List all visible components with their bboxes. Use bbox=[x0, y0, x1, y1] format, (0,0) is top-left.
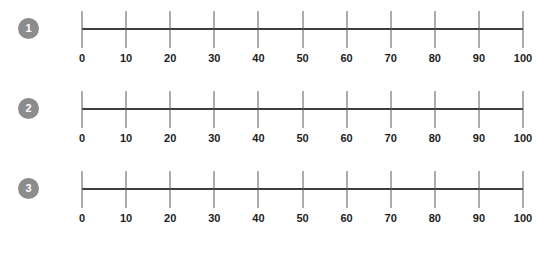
axis-tick-label: 40 bbox=[252, 132, 264, 144]
axis-tick-label: 40 bbox=[252, 52, 264, 64]
axis-tick-label: 70 bbox=[385, 132, 397, 144]
axis-tick-label: 100 bbox=[514, 212, 532, 224]
axis-tick bbox=[82, 171, 83, 208]
axis-tick bbox=[258, 11, 259, 48]
axis-tick bbox=[523, 171, 524, 208]
axis-tick-label: 10 bbox=[120, 132, 132, 144]
axis-tick bbox=[214, 91, 215, 128]
axis-tick-label: 0 bbox=[79, 52, 85, 64]
row-number-badge: 3 bbox=[18, 178, 39, 199]
axis-tick bbox=[302, 91, 303, 128]
axis-tick bbox=[523, 91, 524, 128]
axis-tick-label: 90 bbox=[473, 132, 485, 144]
axis-tick-label: 0 bbox=[79, 212, 85, 224]
number-line-worksheet: 1010203040506070809010020102030405060708… bbox=[0, 0, 558, 261]
axis-tick-label: 40 bbox=[252, 212, 264, 224]
axis-tick bbox=[302, 11, 303, 48]
axis-tick bbox=[170, 171, 171, 208]
axis-tick-label: 50 bbox=[296, 132, 308, 144]
axis-tick bbox=[390, 11, 391, 48]
axis-tick-label: 20 bbox=[164, 132, 176, 144]
row-number-badge: 2 bbox=[18, 98, 39, 119]
axis-tick-label: 20 bbox=[164, 212, 176, 224]
axis-tick bbox=[390, 91, 391, 128]
number-line-row: 20102030405060708090100 bbox=[0, 80, 558, 160]
axis-tick bbox=[523, 11, 524, 48]
axis-tick bbox=[214, 171, 215, 208]
axis-tick bbox=[302, 171, 303, 208]
number-line-row: 10102030405060708090100 bbox=[0, 0, 558, 80]
axis-tick bbox=[390, 171, 391, 208]
axis-tick bbox=[478, 11, 479, 48]
axis-tick-label: 80 bbox=[429, 52, 441, 64]
axis-tick-label: 70 bbox=[385, 52, 397, 64]
axis-tick bbox=[346, 11, 347, 48]
axis-tick bbox=[170, 91, 171, 128]
axis-tick bbox=[346, 91, 347, 128]
axis-tick-label: 10 bbox=[120, 52, 132, 64]
axis-tick-label: 60 bbox=[340, 212, 352, 224]
axis-tick bbox=[434, 11, 435, 48]
axis-tick bbox=[126, 171, 127, 208]
axis-tick-label: 30 bbox=[208, 132, 220, 144]
axis-tick-label: 80 bbox=[429, 212, 441, 224]
axis-tick bbox=[346, 171, 347, 208]
axis-tick bbox=[126, 91, 127, 128]
axis-tick-label: 100 bbox=[514, 132, 532, 144]
axis-tick bbox=[478, 91, 479, 128]
axis-tick bbox=[478, 171, 479, 208]
axis-tick-label: 80 bbox=[429, 132, 441, 144]
axis-tick bbox=[434, 171, 435, 208]
axis-tick bbox=[82, 91, 83, 128]
number-line-row: 30102030405060708090100 bbox=[0, 160, 558, 240]
axis-tick-label: 30 bbox=[208, 52, 220, 64]
axis-tick bbox=[126, 11, 127, 48]
axis-tick bbox=[258, 91, 259, 128]
axis-tick-label: 30 bbox=[208, 212, 220, 224]
axis-tick-label: 60 bbox=[340, 132, 352, 144]
axis-tick-label: 0 bbox=[79, 132, 85, 144]
axis-tick-label: 50 bbox=[296, 212, 308, 224]
axis-tick-label: 50 bbox=[296, 52, 308, 64]
axis-tick bbox=[434, 91, 435, 128]
number-line-axis[interactable]: 0102030405060708090100 bbox=[82, 80, 523, 160]
axis-tick-label: 60 bbox=[340, 52, 352, 64]
axis-tick-label: 10 bbox=[120, 212, 132, 224]
axis-tick bbox=[82, 11, 83, 48]
axis-tick bbox=[258, 171, 259, 208]
axis-tick-label: 90 bbox=[473, 52, 485, 64]
axis-tick-label: 70 bbox=[385, 212, 397, 224]
axis-tick-label: 100 bbox=[514, 52, 532, 64]
axis-tick-label: 90 bbox=[473, 212, 485, 224]
axis-tick bbox=[170, 11, 171, 48]
axis-tick bbox=[214, 11, 215, 48]
axis-tick-label: 20 bbox=[164, 52, 176, 64]
number-line-axis[interactable]: 0102030405060708090100 bbox=[82, 0, 523, 80]
number-line-axis[interactable]: 0102030405060708090100 bbox=[82, 160, 523, 240]
row-number-badge: 1 bbox=[18, 18, 39, 39]
